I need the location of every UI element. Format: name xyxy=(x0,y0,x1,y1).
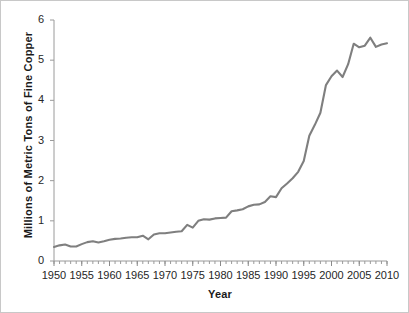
plot-area xyxy=(1,1,409,313)
y-tick-label: 0 xyxy=(28,254,44,266)
y-axis-ticks xyxy=(50,20,54,261)
line-chart-figure: 0123456 19501955196019651970197519801985… xyxy=(0,0,409,313)
x-tick-label: 1990 xyxy=(261,269,291,281)
x-tick-label: 1970 xyxy=(150,269,180,281)
y-axis-title: Millions of Metric Tons of Fine Copper xyxy=(22,20,34,250)
chart-axes xyxy=(50,20,387,266)
x-tick-label: 1965 xyxy=(122,269,152,281)
x-tick-label: 2000 xyxy=(317,269,347,281)
x-tick-label: 2010 xyxy=(372,269,402,281)
x-tick-label: 1975 xyxy=(178,269,208,281)
data-series-line xyxy=(54,38,387,247)
x-tick-label: 1950 xyxy=(39,269,69,281)
x-axis-title: Year xyxy=(53,288,387,300)
x-tick-label: 1995 xyxy=(289,269,319,281)
x-tick-label: 2005 xyxy=(344,269,374,281)
x-tick-label: 1980 xyxy=(206,269,236,281)
x-tick-label: 1960 xyxy=(95,269,125,281)
x-tick-label: 1955 xyxy=(67,269,97,281)
x-tick-label: 1985 xyxy=(233,269,263,281)
